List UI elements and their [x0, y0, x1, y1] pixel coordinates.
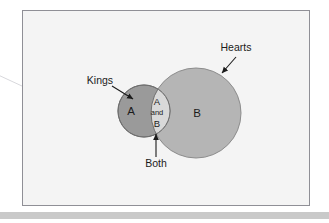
set-b-inner-label: B: [193, 107, 201, 119]
kings-callout-label: Kings: [87, 74, 113, 86]
intersection-label-line-3: B: [154, 118, 160, 129]
hearts-callout-label: Hearts: [221, 41, 252, 53]
venn-diagram-figure: A B A and B Kings Hearts Both: [0, 0, 329, 223]
both-callout-label: Both: [145, 157, 167, 169]
intersection-label-line-1: A: [154, 96, 161, 107]
intersection-label-line-2: and: [151, 108, 164, 117]
venn-diagram-canvas: A B A and B Kings Hearts Both: [0, 0, 329, 223]
set-a-inner-label: A: [127, 105, 135, 117]
page-bottom-shadow: [0, 212, 329, 219]
